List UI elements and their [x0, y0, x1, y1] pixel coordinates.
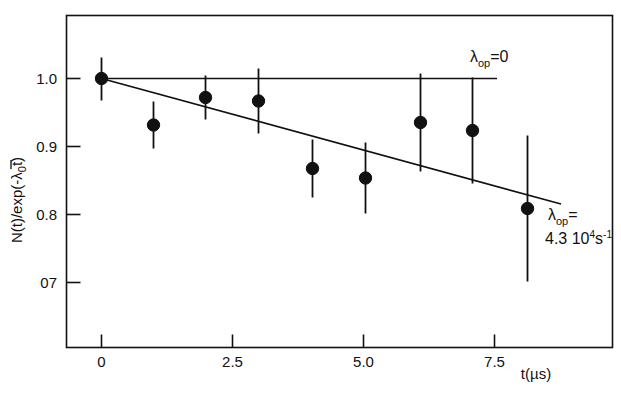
- lambda-op-equals: =: [568, 206, 577, 223]
- y-tick-label-2: 0.8: [36, 206, 57, 223]
- data-point-group: [95, 58, 107, 101]
- data-point-group: [147, 102, 159, 149]
- data-marker: [147, 119, 159, 131]
- data-marker: [521, 202, 533, 214]
- lambda-op-unit: s: [595, 230, 603, 247]
- scatter-plot: 1.0 0.9 0.8 07 N(t)/exp(-λ0t) 0 2.5 5.0 …: [0, 0, 621, 393]
- y-tick-label-1: 0.9: [36, 138, 57, 155]
- data-marker: [414, 116, 426, 128]
- data-series: [95, 58, 533, 282]
- lambda-op-subscript: op: [556, 215, 568, 227]
- x-axis-ticks: [102, 335, 495, 348]
- data-point-group: [521, 136, 533, 282]
- y-axis-title-part1: N(t)/exp(-λ: [8, 172, 25, 243]
- x-tick-label-0: 0: [97, 353, 105, 370]
- lambda-op-zero-annotation: λop=0: [470, 48, 509, 69]
- y-axis-title: N(t)/exp(-λ0t): [8, 157, 28, 243]
- data-point-group: [359, 143, 371, 214]
- y-tick-label-0: 1.0: [36, 70, 57, 87]
- data-point-group: [414, 74, 426, 172]
- lambda-glyph: λ: [470, 48, 478, 65]
- data-marker: [95, 72, 107, 84]
- data-marker: [359, 172, 371, 184]
- data-marker: [306, 162, 318, 174]
- plot-frame: [67, 16, 613, 348]
- data-marker: [466, 124, 478, 136]
- figure-container: 1.0 0.9 0.8 07 N(t)/exp(-λ0t) 0 2.5 5.0 …: [0, 0, 621, 393]
- x-axis-title: t(µs): [521, 365, 551, 382]
- lambda-op-unit-exponent: -1: [603, 229, 612, 240]
- data-point-group: [306, 140, 318, 198]
- y-axis-ticks: [67, 79, 81, 283]
- data-marker: [199, 91, 211, 103]
- x-tick-label-3: 7.5: [484, 353, 505, 370]
- x-tick-label-1: 2.5: [222, 353, 243, 370]
- data-point-group: [466, 78, 478, 184]
- x-tick-label-2: 5.0: [353, 353, 374, 370]
- data-marker: [252, 95, 264, 107]
- lambda-op-zero-rest: =0: [490, 48, 508, 65]
- y-tick-label-3: 07: [40, 274, 57, 291]
- lambda-op-value-annotation-line1: λop=: [548, 206, 578, 227]
- lambda-op-fit-line: [102, 79, 562, 205]
- lambda-glyph: λ: [548, 206, 556, 223]
- lambda-op-subscript: op: [478, 57, 490, 69]
- lambda-op-value-annotation-line2: 4.3 104s-1: [545, 229, 612, 247]
- y-axis-title-text: N(t)/exp(-λ0t): [8, 157, 28, 243]
- data-point-group: [199, 76, 211, 120]
- lambda-op-mantissa: 4.3 10: [545, 230, 590, 247]
